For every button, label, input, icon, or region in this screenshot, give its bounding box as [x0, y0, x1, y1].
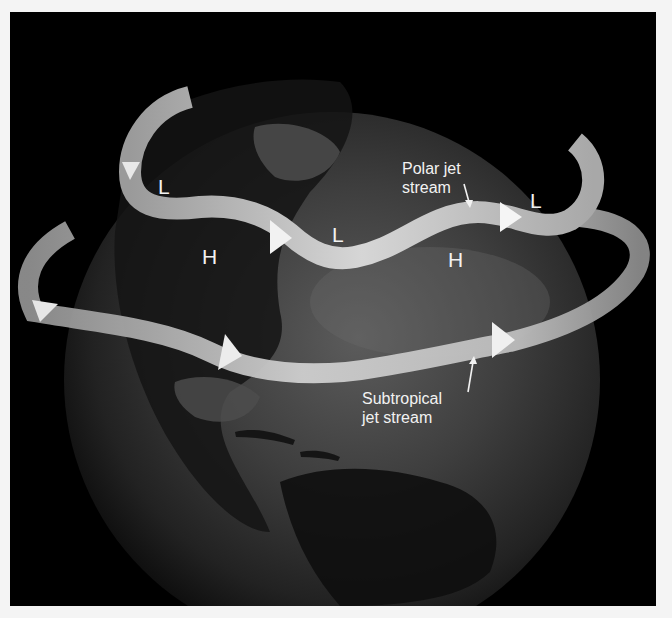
low-pressure-marker: L: [530, 189, 542, 212]
high-pressure-marker: H: [448, 248, 463, 271]
subtropical-jet-label-line1: Subtropical: [362, 390, 442, 407]
low-pressure-marker: L: [158, 175, 170, 198]
polar-jet-label-line2: stream: [402, 179, 451, 196]
jet-stream-diagram: Polar jet stream Subtropical jet stream …: [10, 12, 656, 606]
diagram-panel: Polar jet stream Subtropical jet stream …: [10, 12, 656, 606]
low-pressure-marker: L: [332, 223, 344, 246]
polar-jet-label-line1: Polar jet: [402, 160, 461, 177]
high-pressure-marker: H: [202, 245, 217, 268]
subtropical-jet-label-line2: jet stream: [361, 409, 432, 426]
